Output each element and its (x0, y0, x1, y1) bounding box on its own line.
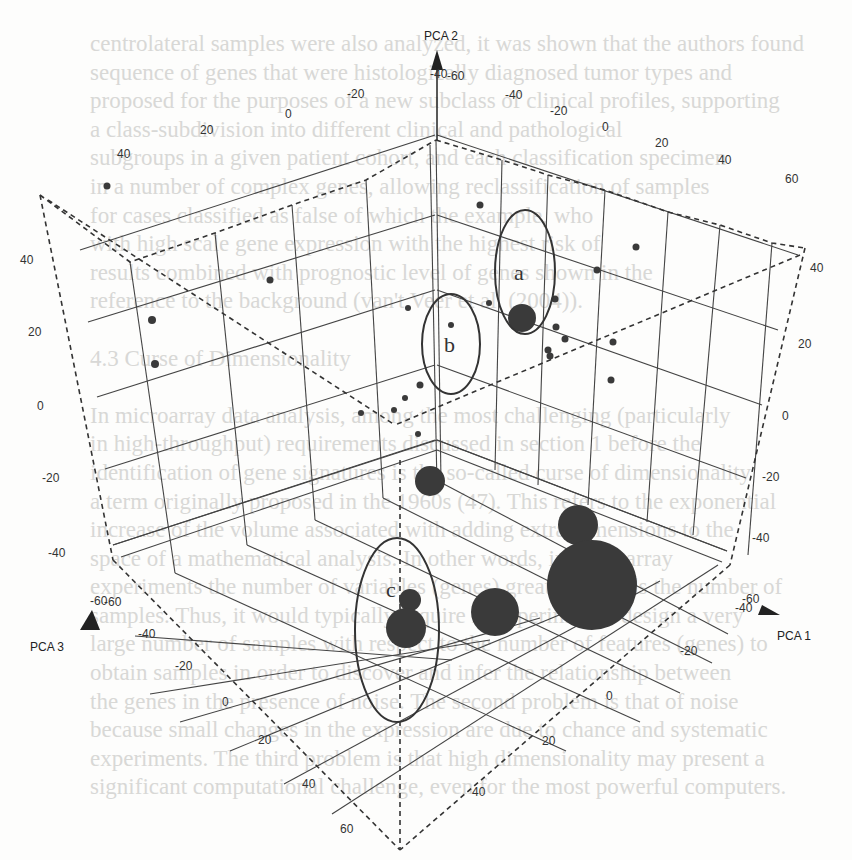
svg-text:0: 0 (37, 399, 44, 413)
svg-text:0: 0 (602, 120, 609, 134)
svg-text:40: 40 (810, 261, 824, 275)
tick-labels: 40 20 0 -20 -40 -60 -40 -20 0 20 40 60 4… (20, 67, 824, 836)
svg-text:40: 40 (302, 777, 316, 791)
svg-text:-20: -20 (762, 470, 780, 484)
pca2-axis-label: PCA 2 (424, 29, 458, 43)
svg-text:-20: -20 (680, 644, 698, 658)
cluster-c-label: c (386, 577, 396, 602)
cluster-a-label: a (514, 260, 524, 285)
svg-text:20: 20 (258, 733, 272, 747)
cluster-b-label: b (444, 332, 455, 357)
svg-text:-40: -40 (430, 67, 448, 81)
svg-text:0: 0 (285, 107, 292, 121)
svg-text:40: 40 (117, 147, 131, 161)
pca1-axis: PCA 1 (758, 605, 811, 643)
svg-text:40: 40 (20, 253, 34, 267)
pca3-axis-label: PCA 3 (30, 640, 64, 654)
svg-text:-40: -40 (48, 546, 66, 560)
svg-text:-40: -40 (138, 627, 156, 641)
svg-text:-20: -20 (347, 87, 365, 101)
cluster-labels: a b c (386, 260, 524, 602)
pca2-axis: PCA 2 (424, 29, 458, 140)
svg-text:20: 20 (200, 123, 214, 137)
svg-text:-20: -20 (550, 104, 568, 118)
svg-text:-40: -40 (505, 88, 523, 102)
svg-text:40: 40 (718, 153, 732, 167)
svg-text:20: 20 (542, 734, 556, 748)
svg-text:60: 60 (785, 172, 799, 186)
svg-text:-20: -20 (175, 659, 193, 673)
svg-text:40: 40 (472, 785, 486, 799)
pca3-axis: PCA 3 (30, 610, 100, 654)
svg-text:0: 0 (606, 689, 613, 703)
svg-text:20: 20 (655, 136, 669, 150)
svg-text:60: 60 (340, 822, 354, 836)
svg-text:-20: -20 (42, 471, 60, 485)
back-wall-grid-left (80, 135, 441, 573)
back-wall-grid-right (437, 135, 798, 555)
svg-text:20: 20 (28, 325, 42, 339)
svg-text:0: 0 (782, 409, 789, 423)
svg-text:-40: -40 (735, 601, 753, 615)
scanned-book-page: centrolateral samples were also analyzed… (0, 0, 852, 860)
svg-text:-40: -40 (752, 531, 770, 545)
svg-text:0: 0 (222, 695, 229, 709)
bounding-box-dashed (40, 140, 805, 850)
svg-text:-60: -60 (447, 69, 465, 83)
pca1-axis-label: PCA 1 (777, 629, 811, 643)
svg-text:20: 20 (798, 337, 812, 351)
pca-3d-scatter-plot: PCA 2 PCA 1 PCA 3 40 20 0 -20 -40 -60 -4… (0, 0, 852, 860)
svg-text:-60: -60 (104, 595, 122, 609)
